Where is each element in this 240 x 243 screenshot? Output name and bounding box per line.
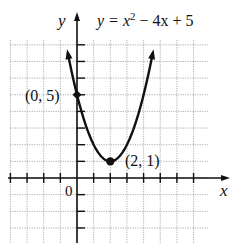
- x-axis-label: x: [219, 181, 228, 200]
- point-label-0-5: (0, 5): [25, 87, 60, 105]
- curve-arrow-icon: [66, 49, 73, 59]
- grid-lines: [10, 40, 208, 243]
- equation-label: y = x2 − 4x + 5: [95, 10, 194, 30]
- parabola-graph: y x 0 y = x2 − 4x + 5 (0, 5) (2, 1): [0, 0, 240, 243]
- y-axis-arrow-icon: [74, 12, 80, 21]
- labels: y x 0 y = x2 − 4x + 5 (0, 5) (2, 1): [25, 10, 228, 200]
- y-axis-label: y: [56, 11, 66, 30]
- axes: [8, 12, 230, 243]
- point-marker: [73, 90, 82, 99]
- point-marker: [106, 157, 114, 165]
- curve-arrow-icon: [148, 49, 155, 59]
- origin-label: 0: [65, 183, 73, 199]
- point-label-2-1: (2, 1): [125, 152, 160, 170]
